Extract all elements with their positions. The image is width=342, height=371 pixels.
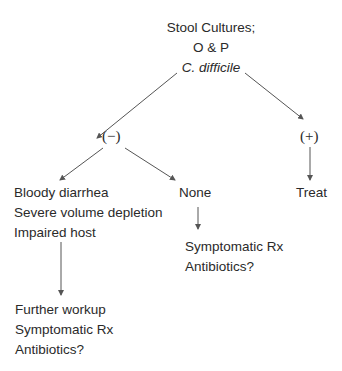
none-result-line-2: Antibiotics? — [185, 257, 283, 277]
edge-negative-none — [125, 148, 175, 180]
none-node: None — [179, 183, 211, 203]
negative-node: (−) — [102, 126, 120, 146]
none-result-line-1: Symptomatic Rx — [185, 237, 283, 257]
bloody-node: Bloody diarrhea Severe volume depletion … — [14, 183, 163, 243]
edge-negative-bloody — [60, 148, 103, 180]
further-node: Further workup Symptomatic Rx Antibiotic… — [15, 300, 113, 360]
further-line-1: Further workup — [15, 300, 113, 320]
root-node: Stool Cultures; O & P C. difficile — [155, 18, 267, 78]
root-line-1: Stool Cultures; — [155, 18, 267, 38]
bloody-line-2: Severe volume depletion — [14, 203, 163, 223]
root-line-3: C. difficile — [155, 58, 267, 78]
treat-node: Treat — [296, 183, 327, 203]
positive-node: (+) — [300, 126, 318, 146]
none-result-node: Symptomatic Rx Antibiotics? — [185, 237, 283, 277]
bloody-line-1: Bloody diarrhea — [14, 183, 163, 203]
root-line-2: O & P — [155, 38, 267, 58]
further-line-3: Antibiotics? — [15, 340, 113, 360]
edge-root-positive — [245, 73, 303, 119]
bloody-line-3: Impaired host — [14, 223, 163, 243]
further-line-2: Symptomatic Rx — [15, 320, 113, 340]
